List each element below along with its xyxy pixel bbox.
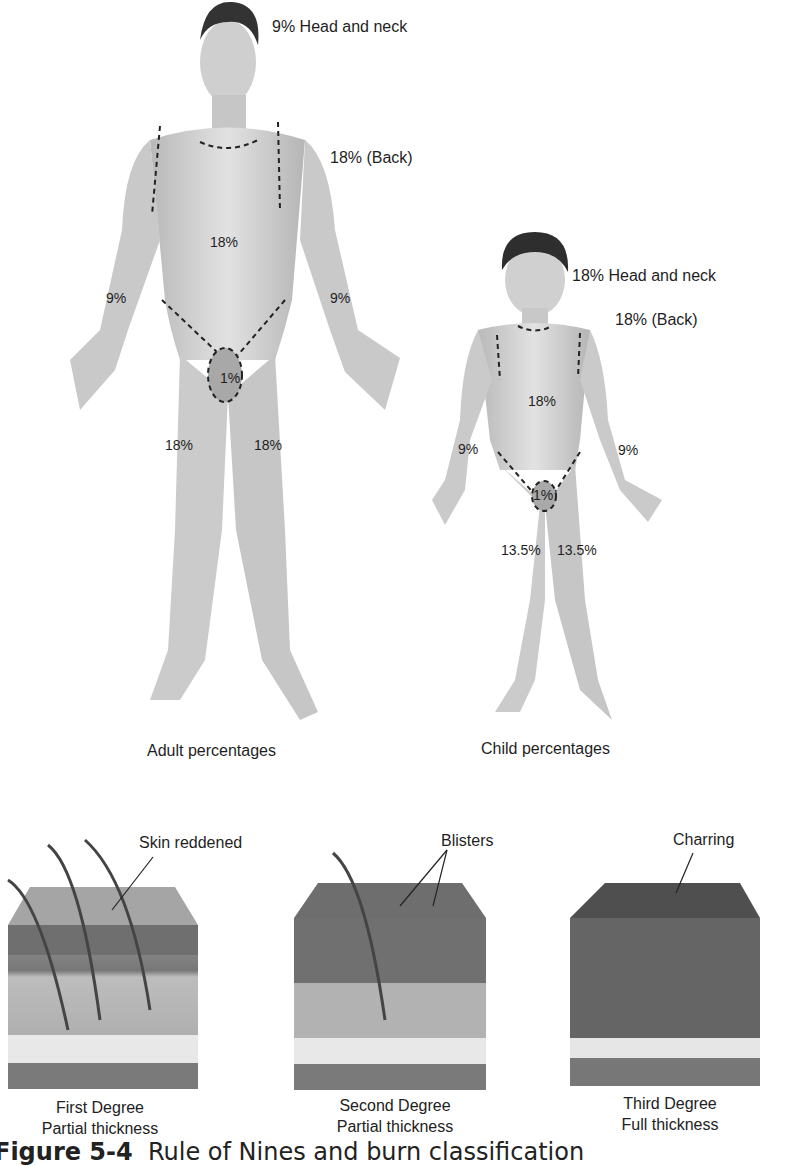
adult-head-neck-label: 9% Head and neck <box>272 18 407 36</box>
child-figure <box>432 232 662 720</box>
adult-left-arm-label: 9% <box>106 290 126 306</box>
second-degree-callout: Blisters <box>441 832 493 850</box>
second-degree-title: Second Degree <box>305 1095 485 1116</box>
second-degree-caption: Second Degree Partial thickness <box>305 1095 485 1137</box>
child-right-arm-label: 9% <box>618 442 638 458</box>
adult-right-leg-label: 18% <box>254 437 282 453</box>
adult-genitals-label: 1% <box>220 370 240 386</box>
child-left-leg-label: 13.5% <box>501 542 541 558</box>
child-right-leg-label: 13.5% <box>557 542 597 558</box>
adult-back-label: 18% (Back) <box>330 149 413 167</box>
second-degree-skin-block <box>294 850 486 1090</box>
third-degree-skin-block <box>570 853 760 1086</box>
third-degree-thickness: Full thickness <box>580 1114 760 1135</box>
adult-trunk-front-label: 18% <box>210 234 238 250</box>
second-degree-thickness: Partial thickness <box>305 1116 485 1137</box>
child-trunk-front-label: 18% <box>528 393 556 409</box>
child-left-arm-label: 9% <box>458 441 478 457</box>
adult-left-leg-label: 18% <box>165 437 193 453</box>
child-genitals-label: 1% <box>533 487 553 503</box>
first-degree-thickness: Partial thickness <box>10 1118 190 1139</box>
first-degree-caption: First Degree Partial thickness <box>10 1097 190 1139</box>
child-back-label: 18% (Back) <box>615 311 698 329</box>
adult-right-arm-label: 9% <box>330 290 350 306</box>
third-degree-title: Third Degree <box>580 1093 760 1114</box>
third-degree-caption: Third Degree Full thickness <box>580 1093 760 1135</box>
child-head-neck-label: 18% Head and neck <box>572 267 716 285</box>
first-degree-callout: Skin reddened <box>139 834 242 852</box>
first-degree-skin-block <box>8 840 198 1089</box>
adult-figure <box>70 2 400 720</box>
figure-caption: Figure 5-4 Rule of Nines and burn classi… <box>0 1138 584 1166</box>
figure-number: Figure 5-4 <box>0 1138 133 1166</box>
figure-caption-text: Rule of Nines and burn classification <box>148 1138 584 1166</box>
adult-title: Adult percentages <box>147 742 276 760</box>
third-degree-callout: Charring <box>673 831 734 849</box>
child-title: Child percentages <box>481 740 610 758</box>
first-degree-title: First Degree <box>10 1097 190 1118</box>
